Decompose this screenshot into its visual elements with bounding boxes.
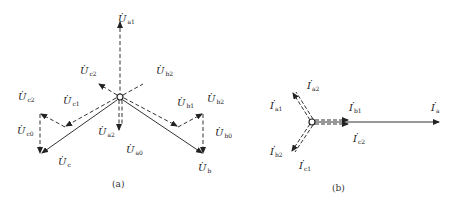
label-ib2: ·Ib2 (270, 147, 283, 158)
label-ub0: ·Ub0 (215, 128, 232, 139)
label-ua2: ·Ua2 (98, 127, 115, 138)
phasor-ia1 (296, 92, 313, 119)
label-ua0: ·Ua0 (126, 145, 143, 156)
caption-b: (b) (332, 183, 345, 193)
phasor-ub2 (178, 114, 202, 127)
label-ua1: ·Ua1 (118, 14, 135, 25)
label-ia1: ·Ia1 (270, 101, 282, 112)
phasor-diagram-figure: ·Ua1 ·Uc2 ·Ub2 ·Uc2 ·Uc1 ·Ub1 ·Ub2 ·Uc0 … (0, 0, 455, 203)
label-ub2: ·Ub2 (207, 94, 224, 105)
phasor-uc2 (41, 114, 65, 127)
label-uc2: ·Uc2 (18, 92, 35, 103)
label-ic1: ·Ic1 (299, 161, 311, 172)
label-ia: ·Ia (431, 103, 440, 114)
label-ib1: ·Ib1 (349, 103, 362, 114)
neutral-point-a (117, 94, 123, 100)
phasor-uc2-short (99, 84, 117, 95)
neutral-point-b (309, 119, 315, 125)
phasor-ic1 (292, 124, 310, 151)
label-uc: ·Uc (58, 157, 71, 168)
phasor-ia2 (293, 93, 310, 120)
phasor-ub2-short (123, 84, 143, 95)
label-ub: ·Ub (198, 163, 211, 174)
caption-a: (a) (112, 179, 124, 189)
phasor-ub1 (124, 98, 177, 126)
label-uc2-top: ·Uc2 (80, 66, 97, 77)
label-ia2: ·Ia2 (307, 81, 319, 92)
phasor-ib2 (295, 125, 313, 152)
label-uc1: ·Uc1 (63, 96, 80, 107)
label-ic2: ·Ic2 (353, 134, 365, 145)
label-ub2-top: ·Ub2 (156, 66, 173, 77)
label-ub1: ·Ub1 (177, 98, 194, 109)
label-uc0: ·Uc0 (17, 126, 34, 137)
